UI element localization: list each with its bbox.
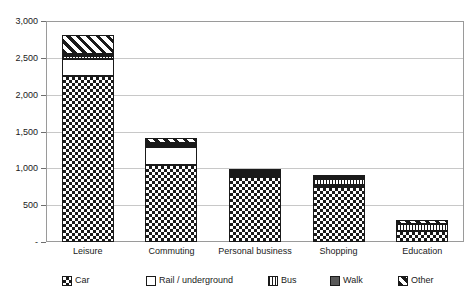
legend-label: Bus [281, 275, 297, 286]
legend-swatch-icon [146, 276, 156, 286]
x-tick-label: Shopping [320, 246, 358, 257]
x-axis: LeisureCommutingPersonal businessShoppin… [46, 246, 464, 262]
legend-swatch-icon [330, 276, 340, 286]
bar-segment[interactable] [229, 177, 281, 242]
stacked-bar-chart: -5001,0001,5002,0002,5003,000 LeisureCom… [0, 0, 472, 303]
legend-label: Rail / underground [159, 275, 233, 286]
bar-segment[interactable] [62, 76, 114, 242]
legend-item[interactable]: Walk [330, 275, 363, 286]
bar-group[interactable] [313, 175, 365, 242]
y-tick-label: 3,000 [15, 17, 38, 26]
legend-label: Walk [343, 275, 363, 286]
y-tick-label: 2,000 [15, 90, 38, 99]
legend-label: Car [75, 275, 90, 286]
y-tick-label: 2,500 [15, 53, 38, 62]
chart-legend: CarRail / undergroundBusWalkOther [0, 275, 472, 291]
bar-group[interactable] [396, 220, 448, 242]
x-tick-label: Leisure [73, 246, 103, 257]
legend-label: Other [411, 275, 434, 286]
legend-item[interactable]: Rail / underground [146, 275, 233, 286]
bar-segment[interactable] [396, 224, 448, 231]
bars-layer [46, 21, 464, 242]
y-tick-label: 1,500 [15, 127, 38, 136]
bar-group[interactable] [145, 138, 197, 242]
legend-item[interactable]: Car [62, 275, 90, 286]
bar-segment[interactable] [396, 231, 448, 242]
legend-swatch-icon [268, 276, 278, 286]
legend-swatch-icon [62, 276, 72, 286]
legend-item[interactable]: Bus [268, 275, 297, 286]
y-tick-label: 1,000 [15, 164, 38, 173]
y-axis: -5001,0001,5002,0002,5003,000 [0, 0, 46, 265]
y-tick-label: 500 [23, 201, 38, 210]
x-tick-label: Personal business [218, 246, 292, 257]
x-tick-label: Education [402, 246, 442, 257]
bar-segment[interactable] [62, 35, 114, 53]
legend-item[interactable]: Other [398, 275, 434, 286]
bar-group[interactable] [229, 169, 281, 242]
bar-segment[interactable] [145, 165, 197, 242]
bar-segment[interactable] [313, 187, 365, 242]
y-tick-label: - [35, 238, 38, 247]
bar-segment[interactable] [62, 59, 114, 76]
legend-swatch-icon [398, 276, 408, 286]
x-tick-label: Commuting [148, 246, 194, 257]
bar-group[interactable] [62, 35, 114, 242]
bar-segment[interactable] [145, 147, 197, 165]
y-tick-mark [41, 242, 46, 243]
